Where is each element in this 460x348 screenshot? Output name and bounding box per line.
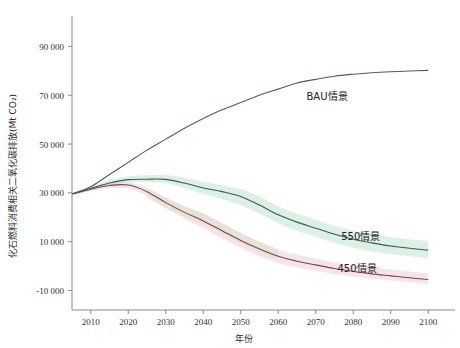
y-tick-label: 10 000: [39, 237, 64, 247]
y-axis-title: 化石燃料消费相关二氧化碳排放(Mt CO₂): [7, 94, 18, 258]
annotation-450情景: 450情景: [337, 262, 376, 274]
x-tick-label: 2010: [82, 317, 101, 327]
x-tick-label: 2020: [119, 317, 138, 327]
annotation-550情景: 550情景: [341, 230, 380, 242]
x-axis-title: 年份: [235, 333, 253, 344]
line-BAU情景: [72, 70, 428, 194]
axes: [68, 16, 455, 314]
y-tick-label: 50 000: [39, 140, 64, 150]
y-tick-label: 90 000: [39, 42, 64, 52]
x-tick-label: 2030: [157, 317, 176, 327]
x-tick-label: 2090: [382, 317, 401, 327]
x-tick-label: 2070: [307, 317, 326, 327]
chart-container: -10 00010 00030 00050 00070 00090 000201…: [0, 0, 460, 348]
x-tick-label: 2050: [232, 317, 251, 327]
annotation-BAU情景: BAU情景: [306, 90, 347, 102]
x-tick-label: 2100: [419, 317, 438, 327]
y-tick-label: 70 000: [39, 91, 64, 101]
x-tick-label: 2080: [344, 317, 363, 327]
emissions-scenario-chart: -10 00010 00030 00050 00070 00090 000201…: [0, 0, 460, 348]
x-tick-label: 2060: [269, 317, 288, 327]
axis-tick-labels: -10 00010 00030 00050 00070 00090 000201…: [36, 42, 438, 327]
y-tick-label: -10 000: [36, 286, 64, 296]
y-tick-label: 30 000: [39, 188, 64, 198]
x-tick-label: 2040: [194, 317, 213, 327]
